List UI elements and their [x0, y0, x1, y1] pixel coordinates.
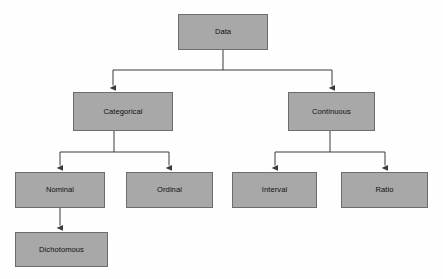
node-data[interactable]: Data [178, 14, 268, 50]
node-label: Nominal [46, 186, 74, 194]
node-interval[interactable]: Interval [232, 172, 317, 208]
node-ratio[interactable]: Ratio [341, 172, 428, 208]
node-categorical[interactable]: Categorical [73, 92, 173, 131]
node-label: Ordinal [157, 186, 182, 194]
node-dichotomous[interactable]: Dichotomous [15, 232, 108, 267]
node-label: Continuous [312, 108, 351, 116]
edge-categorical-to-children [60, 131, 169, 166]
node-ordinal[interactable]: Ordinal [126, 172, 213, 208]
node-nominal[interactable]: Nominal [15, 172, 105, 208]
edge-continuous-to-children [275, 131, 385, 166]
diagram-canvas: Data Categorical Continuous Nominal Ordi… [0, 0, 443, 279]
node-label: Categorical [104, 108, 143, 116]
node-continuous[interactable]: Continuous [288, 92, 375, 131]
node-label: Dichotomous [39, 246, 84, 254]
edge-data-to-children [113, 50, 332, 86]
node-label: Data [215, 28, 231, 36]
node-label: Ratio [376, 186, 394, 194]
node-label: Interval [262, 186, 287, 194]
